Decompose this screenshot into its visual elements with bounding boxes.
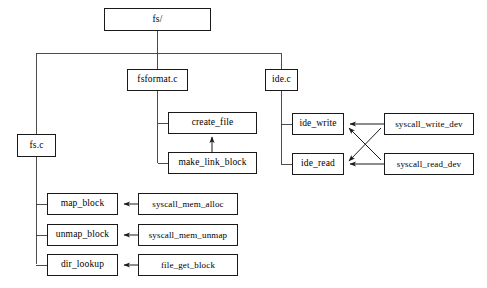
node-dir-lookup[interactable]: dir_lookup: [47, 254, 118, 276]
node-syscall-read-dev[interactable]: syscall_read_dev: [384, 153, 474, 175]
node-ide-write[interactable]: ide_write: [292, 113, 344, 135]
node-file-get-block[interactable]: file_get_block: [138, 254, 238, 276]
node-fs-dir[interactable]: fs/: [104, 8, 211, 31]
node-fs-c[interactable]: fs.c: [17, 134, 56, 157]
node-make-link-block[interactable]: make_link_block: [168, 152, 257, 174]
node-syscall-mem-alloc[interactable]: syscall_mem_alloc: [138, 193, 238, 215]
node-map-block[interactable]: map_block: [47, 193, 118, 215]
node-fsformat-c[interactable]: fsformat.c: [127, 69, 188, 91]
node-unmap-block[interactable]: unmap_block: [47, 224, 118, 246]
node-syscall-write-dev[interactable]: syscall_write_dev: [384, 113, 474, 135]
diagram-canvas: fs/ fsformat.c ide.c fs.c create_file ma…: [0, 0, 487, 288]
node-create-file[interactable]: create_file: [168, 112, 257, 134]
node-ide-c[interactable]: ide.c: [265, 69, 298, 91]
node-ide-read[interactable]: ide_read: [292, 153, 344, 175]
node-syscall-mem-unmap[interactable]: syscall_mem_unmap: [138, 224, 238, 246]
